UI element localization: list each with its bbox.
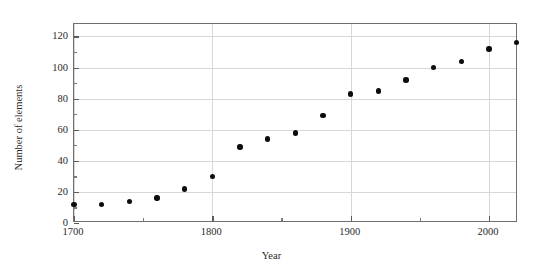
y-axis-tick [74,130,79,131]
gridline-horizontal [74,68,516,69]
y-axis-label: Number of elements [13,63,24,193]
x-axis-tick-label: 1800 [201,226,222,237]
data-point [154,195,159,200]
y-axis-tick [74,36,79,37]
x-axis-label: Year [0,250,543,261]
x-axis-minor-tick [143,218,144,221]
data-point [237,144,242,149]
data-point [127,199,132,204]
x-axis-minor-tick [420,218,421,221]
y-axis-tick [74,99,79,100]
y-axis-tick-label: 100 [52,61,68,72]
x-axis-tick [351,216,352,221]
y-axis-minor-tick [74,176,77,177]
gridline-horizontal [74,161,516,162]
gridline-horizontal [74,99,516,100]
data-point [71,202,76,207]
gridline-horizontal [74,36,516,37]
y-axis-tick-label: 20 [58,185,69,196]
gridline-vertical [212,24,213,221]
gridline-vertical [489,24,490,221]
y-axis-tick-label: 120 [52,30,68,41]
data-point [265,136,270,141]
data-point [320,113,325,118]
plot-area [73,23,517,222]
data-point [99,202,104,207]
data-point [376,88,381,93]
y-axis-tick-label: 80 [58,92,69,103]
y-axis-tick [74,192,79,193]
data-point [403,77,408,82]
y-axis-minor-tick [74,52,77,53]
y-axis-tick-label: 60 [58,123,69,134]
data-point [486,46,491,51]
y-axis-tick [74,161,79,162]
y-axis-minor-tick [74,114,77,115]
data-point [431,65,436,70]
data-point [514,40,519,45]
chart-container: Chronology of Elements Number of element… [0,0,543,274]
x-axis-tick [212,216,213,221]
x-axis-tick [74,216,75,221]
y-axis-minor-tick [74,207,77,208]
y-axis-tick [74,223,79,224]
gridline-vertical [351,24,352,221]
y-axis-tick [74,68,79,69]
gridline-horizontal [74,192,516,193]
y-axis-minor-tick [74,83,77,84]
data-point [182,186,187,191]
x-axis-minor-tick [281,218,282,221]
data-point [210,174,215,179]
x-axis-tick [489,216,490,221]
x-axis-tick-label: 2000 [477,226,498,237]
y-axis-minor-tick [74,145,77,146]
data-point [348,91,353,96]
x-axis-tick-label: 1700 [63,226,84,237]
y-axis-tick-label: 40 [58,154,69,165]
data-point [459,59,464,64]
x-axis-tick-label: 1900 [339,226,360,237]
data-point [293,130,298,135]
